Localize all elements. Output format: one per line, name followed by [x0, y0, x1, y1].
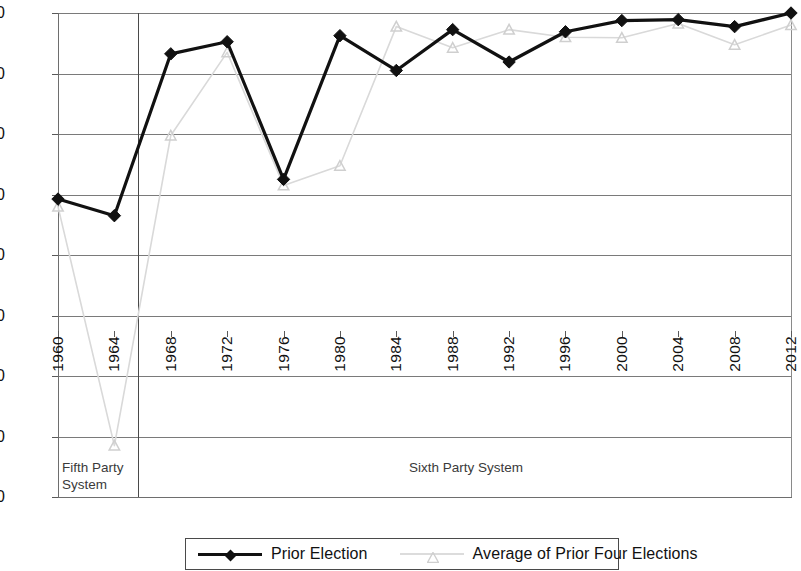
x-axis-label: 1980 — [331, 336, 349, 372]
x-axis-label: 1968 — [162, 336, 180, 372]
legend-swatch-average-prior-four — [400, 545, 464, 563]
gridline — [58, 376, 792, 377]
annotation-fifth-party-system: Fifth Party System — [62, 459, 136, 493]
gridline — [58, 316, 792, 317]
diamond-marker-icon — [224, 548, 237, 566]
y-axis-label: -0.60 — [0, 488, 5, 506]
y-axis-tick-labels: 1.000.800.600.400.200.00-0.20-0.40-0.60 — [0, 0, 58, 571]
triangle-marker-icon — [427, 549, 439, 567]
x-axis-label: 1984 — [387, 336, 405, 372]
x-axis-label: 1972 — [218, 336, 236, 372]
x-axis-label: 2012 — [782, 336, 800, 372]
gridline — [58, 134, 792, 135]
legend-label-average-prior-four: Average of Prior Four Elections — [473, 545, 698, 563]
y-axis-label: 1.00 — [0, 4, 5, 22]
y-axis-label: 0.40 — [0, 186, 5, 204]
legend-swatch-prior-election — [198, 545, 262, 563]
plot-right-border — [791, 13, 792, 497]
legend-entry-prior-election: Prior Election — [198, 539, 368, 569]
y-axis-label: 0.80 — [0, 65, 5, 83]
party-system-divider — [138, 13, 139, 497]
gridline — [58, 13, 792, 14]
x-axis-label: 1996 — [556, 336, 574, 372]
y-axis-label: 0.20 — [0, 246, 5, 264]
y-axis-label: 0.00 — [0, 307, 5, 325]
plot-area — [58, 13, 792, 497]
chart-legend: Prior Election Average of Prior Four Ele… — [185, 538, 619, 570]
gridline — [58, 255, 792, 256]
y-axis-label: 0.60 — [0, 125, 5, 143]
x-axis-label: 1976 — [275, 336, 293, 372]
gridline — [58, 437, 792, 438]
legend-entry-average-prior-four: Average of Prior Four Elections — [400, 539, 698, 569]
x-axis-label: 1992 — [500, 336, 518, 372]
annotation-sixth-party-system: Sixth Party System — [142, 459, 790, 476]
fifth-party-line2: System — [62, 477, 107, 492]
y-axis-line — [58, 13, 59, 497]
gridline — [58, 195, 792, 196]
x-axis-label: 1988 — [444, 336, 462, 372]
x-axis-label: 2000 — [613, 336, 631, 372]
fifth-party-line1: Fifth Party — [62, 460, 124, 475]
legend-label-prior-election: Prior Election — [271, 545, 368, 563]
chart-container: 1.000.800.600.400.200.00-0.20-0.40-0.60 … — [0, 0, 801, 571]
x-axis-label: 1960 — [49, 336, 67, 372]
x-axis-label: 1964 — [105, 336, 123, 372]
y-axis-label: -0.20 — [0, 367, 5, 385]
y-axis-label: -0.40 — [0, 428, 5, 446]
x-axis-label: 2008 — [726, 336, 744, 372]
x-axis-line — [58, 497, 792, 498]
x-axis-label: 2004 — [669, 336, 687, 372]
gridline — [58, 74, 792, 75]
